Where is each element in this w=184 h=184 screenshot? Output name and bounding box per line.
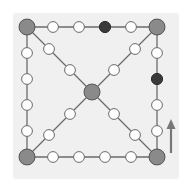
empty-node-diag-tl[interactable] bbox=[44, 44, 55, 55]
empty-node-right[interactable] bbox=[152, 100, 163, 111]
dark-piece-node-right[interactable] bbox=[151, 73, 162, 84]
empty-node-left[interactable] bbox=[22, 48, 33, 59]
empty-node-left[interactable] bbox=[22, 126, 33, 137]
empty-node-right[interactable] bbox=[152, 126, 163, 137]
empty-node-left[interactable] bbox=[22, 74, 33, 85]
empty-node-right[interactable] bbox=[152, 48, 163, 59]
corner-node-top-left[interactable] bbox=[19, 19, 35, 35]
empty-node-diag-tr[interactable] bbox=[109, 65, 120, 76]
empty-node-left[interactable] bbox=[22, 100, 33, 111]
empty-node-diag-br[interactable] bbox=[109, 109, 120, 120]
board-diagram bbox=[0, 0, 184, 184]
dark-piece-node-top[interactable] bbox=[99, 21, 110, 32]
empty-node-bottom[interactable] bbox=[74, 152, 85, 163]
empty-node-bottom[interactable] bbox=[126, 152, 137, 163]
empty-node-bottom[interactable] bbox=[48, 152, 59, 163]
corner-node-center[interactable] bbox=[84, 84, 100, 100]
empty-node-diag-bl[interactable] bbox=[44, 130, 55, 141]
corner-node-bottom-left[interactable] bbox=[19, 149, 35, 165]
empty-node-top[interactable] bbox=[74, 22, 85, 33]
empty-node-top[interactable] bbox=[48, 22, 59, 33]
corner-node-bottom-right[interactable] bbox=[149, 149, 165, 165]
empty-node-diag-tr[interactable] bbox=[130, 44, 141, 55]
empty-node-diag-br[interactable] bbox=[130, 130, 141, 141]
empty-node-bottom[interactable] bbox=[100, 152, 111, 163]
board-canvas bbox=[0, 0, 184, 184]
empty-node-diag-bl[interactable] bbox=[65, 109, 76, 120]
empty-node-top[interactable] bbox=[126, 22, 137, 33]
corner-node-top-right[interactable] bbox=[149, 19, 165, 35]
empty-node-diag-tl[interactable] bbox=[65, 65, 76, 76]
